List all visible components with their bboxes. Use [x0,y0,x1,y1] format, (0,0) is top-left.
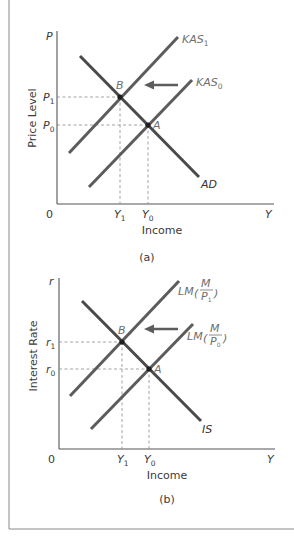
y-tick-r1: r1 [46,336,56,351]
y-tick-p1: P1 [43,91,55,106]
svg-text:M: M [210,322,220,335]
panel-caption: (a) [139,251,154,264]
panel-caption: (b) [159,493,175,506]
equilibrium-point-b [117,94,122,99]
svg-text:P0: P0 [210,335,221,348]
svg-text:): ) [222,332,227,345]
svg-text:LM: LM [178,285,194,298]
equilibrium-point-b [119,339,124,344]
svg-text:LM: LM [187,330,203,343]
y-axis-label: Interest Rate [27,320,40,391]
panel-b: r 0 Y Interest Rate Income (b) r1 r0 Y1 … [27,275,275,506]
lm1-label: LM ( M P1 ) [178,277,218,303]
kas0-curve [89,80,192,187]
point-b-label: B [116,79,124,92]
x-tick-y1: Y1 [117,453,129,468]
x-tick-y0: Y0 [142,208,154,223]
x-tick-y1: Y1 [114,208,126,223]
x-axis-label: Income [147,469,188,482]
y-axis-label: Price Level [26,88,39,147]
figure-frame [9,0,294,529]
kas1-curve [69,37,178,153]
origin-label: 0 [46,208,53,221]
figure-kas-ad-is-lm: P 0 Y Price Level Income (a) P1 P0 Y1 Y0… [0,0,294,549]
origin-label: 0 [48,453,55,466]
x-tick-y0: Y0 [144,453,156,468]
shift-left-arrow-icon [144,81,178,90]
ad-curve [80,56,199,177]
lm1-curve [70,281,179,396]
kas1-label: KAS1 [182,33,209,48]
point-b-label: B [118,324,126,337]
svg-text:P1: P1 [201,290,212,303]
svg-text:M: M [201,277,211,290]
y-axis-symbol: r [49,275,55,288]
ad-label: AD [200,178,217,191]
equilibrium-point-a [146,366,151,371]
y-axis-symbol: P [46,30,53,43]
x-axis-symbol: Y [267,453,275,466]
panel-a: P 0 Y Price Level Income (a) P1 P0 Y1 Y0… [26,30,274,264]
lm0-curve [91,324,193,429]
equilibrium-point-a [145,122,150,127]
x-axis-label: Income [142,224,183,237]
point-a-label: A [153,363,162,376]
svg-text:(: ( [203,332,208,345]
shift-left-arrow-icon [144,325,178,334]
x-axis-symbol: Y [265,208,273,221]
y-tick-p0: P0 [43,119,55,134]
y-tick-r0: r0 [46,363,56,378]
svg-text:): ) [213,287,218,300]
svg-text:(: ( [194,287,199,300]
kas0-label: KAS0 [196,76,223,91]
point-a-label: A [152,119,161,132]
is-label: IS [202,423,212,436]
